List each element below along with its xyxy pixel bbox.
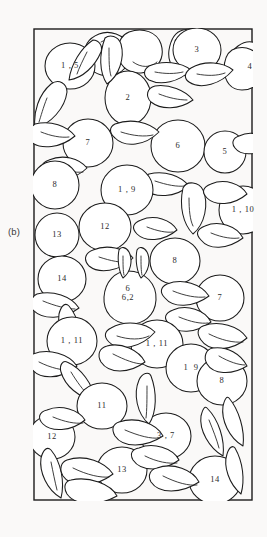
figure-panel: (b) .o{fill:#ffffff;stroke:#1c1c1c;strok… bbox=[0, 0, 267, 537]
line-drawing-svg: .o{fill:#ffffff;stroke:#1c1c1c;stroke-wi… bbox=[33, 28, 253, 501]
foliage-group bbox=[33, 28, 253, 501]
fruit-line-drawing: .o{fill:#ffffff;stroke:#1c1c1c;stroke-wi… bbox=[33, 28, 253, 501]
panel-caption: (b) bbox=[8, 226, 20, 237]
